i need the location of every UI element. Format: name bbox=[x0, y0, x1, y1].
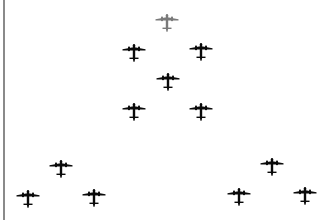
airplane-icon bbox=[122, 43, 146, 63]
airplane-icon bbox=[16, 189, 40, 209]
airplane-icon bbox=[189, 42, 213, 62]
airplane-icon bbox=[189, 102, 213, 122]
airplane-icon bbox=[49, 159, 73, 179]
airplane-icon bbox=[82, 188, 106, 208]
left-border-line bbox=[3, 0, 5, 220]
airplane-icon bbox=[227, 187, 251, 207]
airplane-icon bbox=[156, 72, 180, 92]
airplane-icon bbox=[155, 13, 179, 33]
airplane-icon bbox=[293, 186, 317, 206]
airplane-icon bbox=[260, 157, 284, 177]
airplane-icon bbox=[122, 102, 146, 122]
